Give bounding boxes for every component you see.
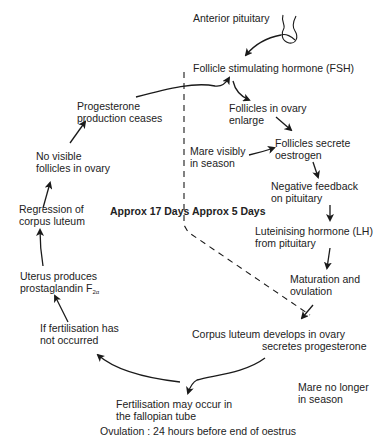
- arrow-uterus-to-regression: [40, 230, 43, 266]
- label-fsh: Follicle stimulating hormone (FSH): [193, 62, 354, 74]
- arrow-maturation-to-corpus: [302, 305, 313, 318]
- arrow-fertilisation-to-not-fertilised: [98, 355, 180, 382]
- label-regression-corpus-luteum: Regression of corpus luteum: [19, 203, 85, 227]
- arrow-oestrogen-to-feedback: [313, 162, 318, 177]
- label-maturation-ovulation: Maturation and ovulation: [290, 273, 360, 297]
- label-phase-17-days: Approx 17 Days: [110, 205, 189, 217]
- arrow-lh-to-maturation: [327, 248, 330, 268]
- label-follicles-enlarge: Follicles in ovary enlarge: [229, 102, 307, 126]
- label-negative-feedback: Negative feedback on pituitary: [271, 180, 358, 204]
- prostaglandin-line: prostaglandin F2α: [20, 282, 99, 298]
- label-no-visible-follicles: No visible follicles in ovary: [36, 150, 110, 174]
- pituitary-gland-icon: [281, 15, 297, 43]
- arrow-pituitary-to-fsh: [246, 35, 281, 55]
- arrow-no-follicles-to-progesterone: [70, 122, 85, 143]
- arrow-progesterone-to-fsh: [136, 78, 229, 97]
- label-anterior-pituitary: Anterior pituitary: [193, 12, 269, 24]
- label-if-not-fertilised: If fertilisation has not occurred: [40, 322, 119, 346]
- label-progesterone-ceases: Progesterone production ceases: [77, 100, 162, 124]
- label-uterus-prostaglandin: Uterus produces prostaglandin F2α: [20, 270, 99, 298]
- arrow-oestrogen-to-mare: [249, 148, 274, 155]
- label-phase-5-days: Approx 5 Days: [192, 205, 266, 217]
- label-lh: Luteinising hormone (LH) from pituitary: [255, 225, 373, 249]
- footer-ovulation-note: Ovulation : 24 hours before end of oestr…: [100, 425, 296, 437]
- arrow-corpus-to-fertilisation: [188, 358, 265, 393]
- label-follicles-oestrogen: Follicles secrete oestrogen: [275, 137, 350, 161]
- label-mare-in-season: Mare visibly in season: [190, 145, 245, 169]
- label-mare-no-longer-in-season: Mare no longer in season: [298, 381, 369, 405]
- label-fertilisation: Fertilisation may occur in the fallopian…: [116, 398, 232, 422]
- arrow-fsh-to-follicles: [233, 81, 249, 100]
- label-corpus-luteum: Corpus luteum develops in ovary secretes…: [192, 328, 366, 352]
- arrow-not-fertilised-to-uterus: [55, 296, 68, 322]
- oestrous-cycle-diagram: Anterior pituitary Follicle stimulating …: [0, 0, 387, 439]
